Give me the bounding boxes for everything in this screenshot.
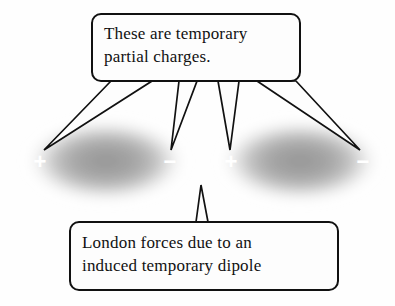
temporary-partial-charges-callout-box: [92, 14, 300, 81]
london-forces-callout-box: [70, 222, 338, 290]
electron-cloud-left: [26, 120, 186, 202]
figure-canvas: [0, 0, 395, 306]
electron-cloud-right: [220, 120, 380, 202]
bottom-callout-leader-line: [196, 185, 208, 222]
leader-line-left-negative: [171, 81, 197, 150]
electron-clouds: [26, 120, 380, 202]
london-forces-figure: These are temporary partial charges. Lon…: [0, 0, 395, 306]
